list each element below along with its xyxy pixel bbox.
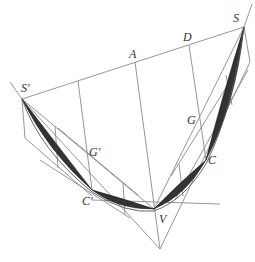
chord-s-prime-s [22,27,244,99]
label-g-prime: G′ [89,145,101,159]
label-g: G [187,113,196,127]
segment-c-s-fill [206,27,244,160]
parabola-quadrature-diagram: S′ S A D G G′ C C′ V [0,0,255,262]
label-d: D [182,30,192,44]
segment-v-c-fill [154,160,206,209]
line-to-c-prime [78,81,92,190]
label-v: V [159,212,168,226]
line-g-parallel [171,78,232,176]
tangent-left-outer [22,99,160,249]
chord-v-s [154,27,244,209]
label-c-prime: C′ [82,194,93,208]
label-s-prime: S′ [21,81,30,95]
label-a: A [128,47,137,61]
label-c: C [208,153,217,167]
tangent-at-c-prime [40,160,130,218]
label-s: S [233,11,239,25]
tangent-extension-right [244,4,252,27]
axis-a-v [135,62,160,249]
right-parallelogram-side [244,27,250,62]
